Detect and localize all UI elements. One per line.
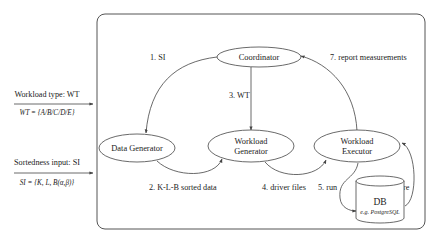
sortedness-input: Sortedness input: SI SI = {K, L, B(α,β)} xyxy=(14,158,93,187)
node-db: DB e.g. PostgreSQL xyxy=(356,176,404,223)
workload-generator-label-line2: Generator xyxy=(234,147,268,156)
edge-label-run: 5. run xyxy=(318,183,337,192)
sortedness-label: Sortedness input: SI xyxy=(14,158,80,167)
edge-report-measurements xyxy=(301,56,357,131)
edge-si xyxy=(146,57,217,133)
node-coordinator: Coordinator xyxy=(217,47,301,67)
edge-sorted-data xyxy=(157,159,222,174)
workload-generator-ellipse xyxy=(208,130,294,162)
coordinator-label: Coordinator xyxy=(239,53,280,62)
workload-executor-label-line2: Executor xyxy=(342,147,372,156)
node-data-generator: Data Generator xyxy=(99,134,175,162)
workload-executor-label-line1: Workload xyxy=(341,137,375,146)
workload-type-label: Workload type: WT xyxy=(14,90,79,99)
data-generator-label: Data Generator xyxy=(111,144,163,153)
node-workload-generator: Workload Generator xyxy=(208,130,294,162)
db-subtitle: e.g. PostgreSQL xyxy=(360,209,400,215)
edge-label-report-measurements: 7. report measurements xyxy=(330,53,407,62)
edge-label-si: 1. SI xyxy=(150,53,166,62)
edge-run xyxy=(340,163,358,211)
node-workload-executor: Workload Executor xyxy=(314,130,400,162)
db-cylinder-top xyxy=(356,176,404,186)
sortedness-definition: SI = {K, L, B(α,β)} xyxy=(20,179,75,187)
edge-label-wt: 3. WT xyxy=(229,91,250,100)
db-title: DB xyxy=(373,197,386,207)
workload-type-definition: WT = {A/B/C/D/E} xyxy=(19,109,74,117)
workload-type-input: Workload type: WT WT = {A/B/C/D/E} xyxy=(14,90,93,117)
architecture-diagram: Workload type: WT WT = {A/B/C/D/E} Sorte… xyxy=(0,0,437,243)
workload-executor-ellipse xyxy=(314,130,400,162)
edge-label-driver-files: 4. driver files xyxy=(262,183,306,192)
edge-label-sorted-data: 2. K-L-B sorted data xyxy=(149,183,217,192)
edge-driver-files xyxy=(265,160,326,175)
workload-generator-label-line1: Workload xyxy=(235,137,269,146)
